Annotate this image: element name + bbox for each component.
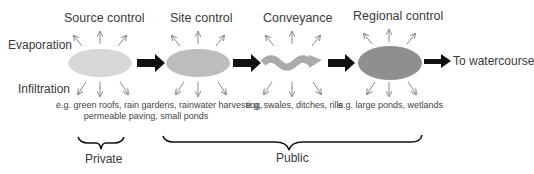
stage-title-regional-control: Regional control [353,9,443,23]
evaporation-label: Evaporation [8,38,72,52]
public-label: Public [276,151,309,165]
regional-examples: e.g. large ponds, wetlands [338,100,443,111]
conveyance-examples: e.g. swales, ditches, rills [246,100,343,111]
stage-title-conveyance: Conveyance [263,11,333,25]
outlet-label: To watercourse [453,54,534,68]
stage-title-source-control: Source control [64,11,145,25]
source-examples: e.g. green roofs, rain gardens, rainwate… [56,100,236,122]
flow-arrow-outlet [424,54,451,68]
public-brace [163,135,422,150]
stage-title-site-control: Site control [170,11,233,25]
flow-arrow-1 [137,54,165,72]
regional-control-node [358,30,422,96]
flow-arrow-2 [233,54,261,72]
source-examples-line1: e.g. green roofs, rain gardens, rainwate… [56,100,236,111]
private-brace [78,137,124,149]
source-control-node [68,32,132,96]
source-examples-line2: permeable paving, small ponds [56,111,236,122]
site-control-node [166,32,230,96]
private-label: Private [85,152,122,166]
flow-arrow-3 [328,54,355,72]
conveyance-node [263,32,322,96]
infiltration-label: Infiltration [18,82,70,96]
